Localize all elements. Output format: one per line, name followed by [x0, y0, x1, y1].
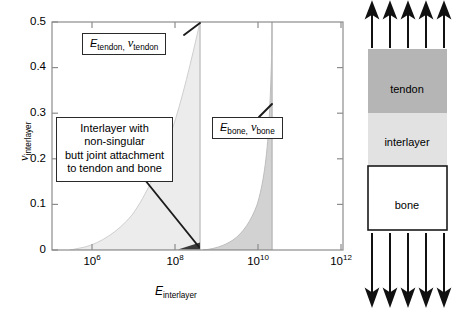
figure-root: 0 0.1 0.2 0.3 0.4 0.5 106 108 1010 1012 … — [0, 0, 458, 314]
arrow-up — [421, 3, 432, 48]
schematic-block-bone — [368, 166, 447, 230]
callout-tendon-e-subscript: tendon, — [97, 43, 124, 52]
arrow-down — [421, 233, 432, 305]
x-tick-label-1e8: 108 — [155, 256, 195, 268]
y-axis-title-subscript: interlayer — [23, 122, 32, 156]
x-tick-base: 10 — [330, 255, 343, 267]
callout-tendon-properties: Etendon, νtendon — [82, 33, 166, 55]
callout-bone-e-subscript: bone, — [227, 127, 248, 136]
callout-interlayer-line-3: butt joint attachment — [65, 149, 164, 162]
callout-interlayer-description: Interlayer with non-singular butt joint … — [56, 117, 173, 182]
x-axis-title: Einterlayer — [155, 285, 197, 297]
arrow-up — [439, 3, 450, 48]
schematic-label-bone: bone — [375, 200, 439, 211]
callout-interlayer-line-2: non-singular — [65, 135, 164, 148]
schematic-arrows-top — [367, 3, 450, 48]
leader-line-bone — [259, 104, 272, 117]
callout-bone-nu-subscript: bone — [256, 127, 274, 136]
leader-line-tendon — [184, 23, 200, 35]
x-tick-base: 10 — [247, 255, 260, 267]
schematic-arrows-bottom — [367, 233, 450, 305]
leader-line-interlayer — [145, 180, 199, 247]
schematic-block-tendon — [368, 49, 447, 113]
x-tick-exponent: 8 — [179, 253, 183, 262]
arrow-up — [385, 3, 396, 48]
x-tick-label-1e6: 106 — [72, 256, 112, 268]
y-axis-title-symbol: ν — [17, 155, 31, 161]
x-axis-title-subscript: interlayer — [163, 291, 197, 300]
arrow-down — [385, 233, 396, 305]
y-axis-title: νinterlayer — [18, 98, 31, 184]
x-tick-exponent: 10 — [260, 253, 269, 262]
schematic-diagram — [367, 3, 450, 305]
x-tick-label-1e10: 1010 — [236, 256, 280, 268]
x-axis-title-symbol: E — [155, 284, 163, 298]
callout-tendon-nu-subscript: tendon — [133, 43, 158, 52]
x-tick-base: 10 — [83, 255, 96, 267]
callout-interlayer-line-1: Interlayer with — [65, 122, 164, 135]
x-tick-exponent: 6 — [96, 253, 100, 262]
callout-bone-properties: Ebone, νbone — [212, 117, 283, 139]
callout-interlayer-line-4: to tendon and bone — [65, 162, 164, 175]
schematic-label-tendon: tendon — [375, 84, 439, 95]
x-tick-label-1e12: 1012 — [319, 256, 363, 268]
x-tick-base: 10 — [166, 255, 179, 267]
arrow-up — [367, 3, 378, 48]
y-tick-label-0.5: 0.5 — [10, 16, 46, 28]
x-tick-exponent: 12 — [343, 253, 352, 262]
arrow-down — [403, 233, 414, 305]
marker-singular-wedge — [178, 243, 200, 250]
arrow-down — [367, 233, 378, 305]
schematic-label-interlayer: interlayer — [371, 137, 443, 148]
arrow-down — [439, 233, 450, 305]
y-tick-label-0.1: 0.1 — [10, 198, 46, 210]
y-tick-label-0.4: 0.4 — [10, 61, 46, 73]
arrow-up — [403, 3, 414, 48]
y-tick-label-0: 0 — [16, 244, 46, 256]
